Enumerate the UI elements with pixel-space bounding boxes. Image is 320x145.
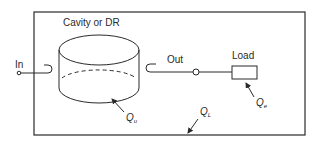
load-label: Load xyxy=(232,51,254,61)
output-label: Out xyxy=(167,55,183,65)
input-label: In xyxy=(15,60,23,70)
qu-label: Qu xyxy=(126,113,137,124)
enclosure-box xyxy=(34,12,305,135)
load-box xyxy=(232,66,257,79)
ql-arrow xyxy=(188,119,198,133)
ql-label: QL xyxy=(200,107,211,118)
cavity-title: Cavity or DR xyxy=(63,18,120,28)
output-coupling xyxy=(146,64,232,75)
qe-label: Qe xyxy=(256,98,267,109)
qe-arrow xyxy=(246,83,254,97)
resonator-diagram xyxy=(0,0,320,145)
cavity-cylinder xyxy=(59,35,139,103)
